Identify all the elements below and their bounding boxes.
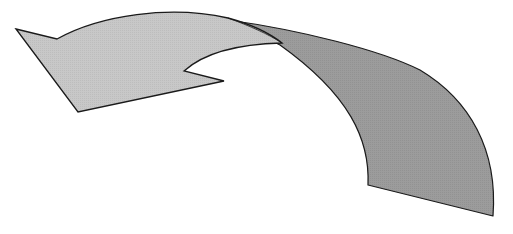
curved-arrow-diagram [0, 0, 513, 234]
arrow-head [16, 12, 282, 112]
arrow-tail-ribbon [228, 20, 494, 216]
